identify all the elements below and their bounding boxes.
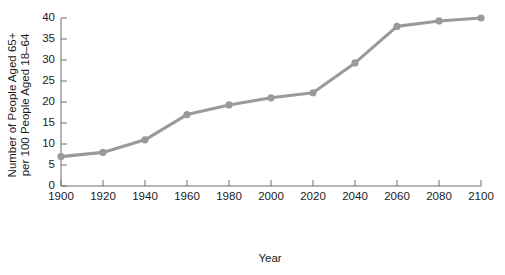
- y-tick-label: 5: [49, 158, 55, 170]
- y-tick-label: 15: [42, 116, 55, 128]
- y-axis-title: Number of People Aged 65+ per 100 People…: [6, 32, 31, 177]
- data-point: [225, 101, 232, 108]
- y-tick-label: 35: [42, 32, 55, 44]
- x-tick-label: 1900: [48, 190, 74, 202]
- data-point: [141, 136, 148, 143]
- data-point: [393, 23, 400, 30]
- data-point: [99, 149, 106, 156]
- data-point: [309, 89, 316, 96]
- y-tick-label: 40: [42, 11, 55, 23]
- x-tick-label: 2020: [300, 190, 326, 202]
- x-tick-label: 2080: [426, 190, 452, 202]
- data-point: [267, 94, 274, 101]
- y-axis-group: 0510152025303540: [42, 11, 67, 191]
- y-tick-label: 20: [42, 95, 55, 107]
- data-point: [351, 59, 358, 66]
- x-tick-label: 2040: [342, 190, 368, 202]
- x-axis-group: 1900192019401960198020002020204020602080…: [48, 180, 494, 202]
- y-tick-label: 10: [42, 137, 55, 149]
- x-tick-label: 1960: [174, 190, 200, 202]
- x-tick-label: 1940: [132, 190, 158, 202]
- line-chart: 0510152025303540 19001920194019601980200…: [0, 0, 505, 275]
- data-point: [435, 17, 442, 24]
- y-axis-title-line-2: per 100 People Aged 18–64: [19, 33, 31, 176]
- x-axis-title: Year: [258, 252, 281, 264]
- y-axis-title-line-1: Number of People Aged 65+: [6, 32, 18, 177]
- x-axis-ticks: 1900192019401960198020002020204020602080…: [48, 180, 494, 202]
- x-tick-label: 2060: [384, 190, 410, 202]
- data-point: [477, 14, 484, 21]
- x-tick-label: 1980: [216, 190, 242, 202]
- x-tick-label: 1920: [90, 190, 116, 202]
- series-markers: [57, 14, 484, 160]
- data-point: [183, 111, 190, 118]
- y-tick-label: 25: [42, 74, 55, 86]
- y-axis-ticks: 0510152025303540: [42, 11, 67, 191]
- x-tick-label: 2100: [468, 190, 494, 202]
- x-tick-label: 2000: [258, 190, 284, 202]
- series-line-path: [61, 18, 481, 157]
- y-tick-label: 30: [42, 53, 55, 65]
- chart-container: 0510152025303540 19001920194019601980200…: [0, 0, 505, 275]
- data-point: [57, 153, 64, 160]
